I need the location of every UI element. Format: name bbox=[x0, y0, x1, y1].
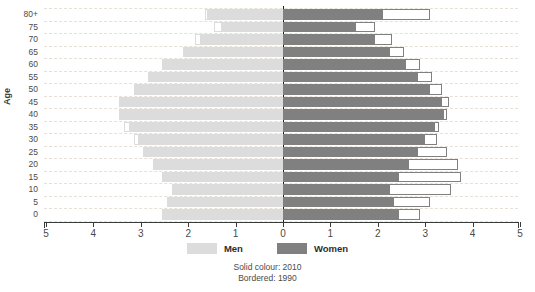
x-axis-tick-label: 2 bbox=[178, 228, 198, 239]
bar-men-2010 bbox=[172, 184, 283, 195]
y-axis-tick-label: 30 bbox=[0, 133, 38, 146]
bar-men-2010 bbox=[162, 59, 283, 70]
x-axis-line bbox=[44, 222, 518, 223]
pyramid-row bbox=[44, 108, 518, 121]
legend-swatch-men-icon bbox=[187, 243, 217, 254]
x-axis-tick-label: 4 bbox=[83, 228, 103, 239]
y-axis-tick-label: 0 bbox=[0, 208, 38, 221]
pyramid-row bbox=[44, 196, 518, 209]
y-axis-tick-label: 80+ bbox=[0, 8, 38, 21]
pyramid-row bbox=[44, 58, 518, 71]
pyramid-row bbox=[44, 96, 518, 109]
bar-men-2010 bbox=[162, 172, 283, 183]
bar-men-2010 bbox=[207, 9, 283, 20]
x-axis-tick bbox=[520, 222, 521, 227]
caption-line-bordered: Bordered: 1990 bbox=[0, 273, 535, 284]
x-axis-tick bbox=[330, 222, 331, 227]
bar-women-2010 bbox=[283, 122, 435, 133]
y-axis-labels: 80+757065605550454035302520151050 bbox=[0, 8, 40, 222]
x-axis-tick-label: 1 bbox=[226, 228, 246, 239]
x-axis-tick-label: 1 bbox=[320, 228, 340, 239]
y-axis-tick-label: 55 bbox=[0, 71, 38, 84]
bar-women-2010 bbox=[283, 209, 399, 220]
bar-women-2010 bbox=[283, 22, 356, 33]
pyramid-row bbox=[44, 146, 518, 159]
y-axis-tick-label: 10 bbox=[0, 183, 38, 196]
x-axis-tick bbox=[378, 222, 379, 227]
x-axis-tick bbox=[46, 222, 47, 227]
bar-women-2010 bbox=[283, 47, 390, 58]
bar-men-2010 bbox=[119, 109, 283, 120]
x-axis-tick bbox=[473, 222, 474, 227]
chart-legend: Men Women bbox=[0, 243, 535, 254]
bar-women-2010 bbox=[283, 109, 444, 120]
bar-women-2010 bbox=[283, 197, 394, 208]
bar-men-2010 bbox=[153, 159, 283, 170]
y-axis-tick-label: 65 bbox=[0, 46, 38, 59]
x-axis-tick-label: 3 bbox=[131, 228, 151, 239]
x-axis-tick-label: 5 bbox=[36, 228, 56, 239]
caption-line-solid: Solid colour: 2010 bbox=[0, 262, 535, 273]
bar-women-2010 bbox=[283, 34, 375, 45]
x-axis-tick bbox=[236, 222, 237, 227]
y-axis-tick-label: 5 bbox=[0, 196, 38, 209]
legend-item-men: Men bbox=[187, 243, 243, 254]
pyramid-row bbox=[44, 133, 518, 146]
bar-women-2010 bbox=[283, 9, 383, 20]
pyramid-row bbox=[44, 33, 518, 46]
x-axis-tick bbox=[188, 222, 189, 227]
bar-men-2010 bbox=[183, 47, 283, 58]
y-axis-tick-label: 40 bbox=[0, 108, 38, 121]
legend-item-women: Women bbox=[277, 243, 348, 254]
y-axis-tick-label: 25 bbox=[0, 146, 38, 159]
pyramid-row bbox=[44, 171, 518, 184]
y-axis-tick-label: 20 bbox=[0, 158, 38, 171]
y-axis-tick-label: 50 bbox=[0, 83, 38, 96]
x-axis-tick bbox=[283, 222, 284, 227]
bar-women-2010 bbox=[283, 172, 399, 183]
bar-women-2010 bbox=[283, 159, 409, 170]
legend-label-women: Women bbox=[314, 243, 348, 254]
bar-men-2010 bbox=[119, 97, 283, 108]
bar-men-2010 bbox=[167, 197, 283, 208]
legend-label-men: Men bbox=[224, 243, 243, 254]
pyramid-row bbox=[44, 158, 518, 171]
bar-women-2010 bbox=[283, 147, 418, 158]
y-axis-tick-label: 15 bbox=[0, 171, 38, 184]
bar-men-2010 bbox=[138, 134, 283, 145]
x-axis-tick bbox=[141, 222, 142, 227]
chart-caption: Solid colour: 2010 Bordered: 1990 bbox=[0, 262, 535, 284]
population-pyramid-chart: Age 80+757065605550454035302520151050 54… bbox=[0, 0, 535, 292]
bar-men-2010 bbox=[162, 209, 283, 220]
bar-women-2010 bbox=[283, 134, 425, 145]
x-axis-tick-label: 2 bbox=[368, 228, 388, 239]
pyramid-row bbox=[44, 71, 518, 84]
pyramid-row bbox=[44, 46, 518, 59]
bar-women-2010 bbox=[283, 184, 390, 195]
legend-swatch-women-icon bbox=[277, 243, 307, 254]
bar-women-2010 bbox=[283, 97, 442, 108]
y-axis-tick-label: 45 bbox=[0, 96, 38, 109]
bar-men-2010 bbox=[148, 72, 283, 83]
bar-men-2010 bbox=[221, 22, 283, 33]
pyramid-row bbox=[44, 121, 518, 134]
x-axis-tick bbox=[425, 222, 426, 227]
bar-men-2010 bbox=[200, 34, 283, 45]
bar-women-2010 bbox=[283, 72, 418, 83]
bar-women-2010 bbox=[283, 59, 406, 70]
pyramid-row bbox=[44, 83, 518, 96]
bar-men-2010 bbox=[143, 147, 283, 158]
x-axis-tick-label: 5 bbox=[510, 228, 530, 239]
y-axis-tick-label: 35 bbox=[0, 121, 38, 134]
bar-men-2010 bbox=[129, 122, 283, 133]
x-axis-tick-label: 0 bbox=[273, 228, 293, 239]
x-axis-tick-label: 3 bbox=[415, 228, 435, 239]
plot-area bbox=[44, 8, 518, 222]
bar-women-2010 bbox=[283, 84, 430, 95]
x-axis-tick-label: 4 bbox=[463, 228, 483, 239]
y-axis-tick-label: 60 bbox=[0, 58, 38, 71]
pyramid-row bbox=[44, 208, 518, 221]
bar-men-2010 bbox=[134, 84, 283, 95]
pyramid-row bbox=[44, 183, 518, 196]
y-axis-tick-label: 75 bbox=[0, 21, 38, 34]
